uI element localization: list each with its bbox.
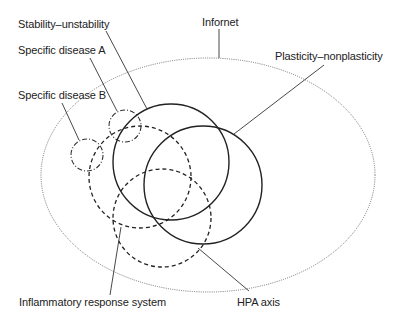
inflammatory-leader-line — [110, 227, 121, 295]
specific-disease-b-label: Specific disease B — [18, 89, 106, 102]
stability-label: Stability–unstability — [18, 18, 109, 31]
hpa-axis-label: HPA axis — [237, 296, 280, 309]
specific-disease-b-circle — [71, 139, 103, 171]
hpa-leader-line — [198, 248, 249, 291]
disease-a-leader-line — [90, 58, 117, 111]
plasticity-leader-line — [234, 65, 324, 134]
stability-leader-line — [106, 31, 147, 109]
stability-circle — [113, 104, 229, 220]
inflammatory-response-label: Inflammatory response system — [19, 296, 166, 309]
inflammatory-response-circle — [113, 169, 211, 267]
infornet-label: Infornet — [202, 16, 239, 29]
venn-diagram: Stability–unstability Specific disease A… — [0, 0, 395, 319]
plasticity-label: Plasticity–nonplasticity — [275, 50, 383, 63]
specific-disease-a-label: Specific disease A — [18, 44, 105, 57]
hpa-axis-circle — [89, 126, 191, 228]
plasticity-circle — [144, 126, 262, 244]
